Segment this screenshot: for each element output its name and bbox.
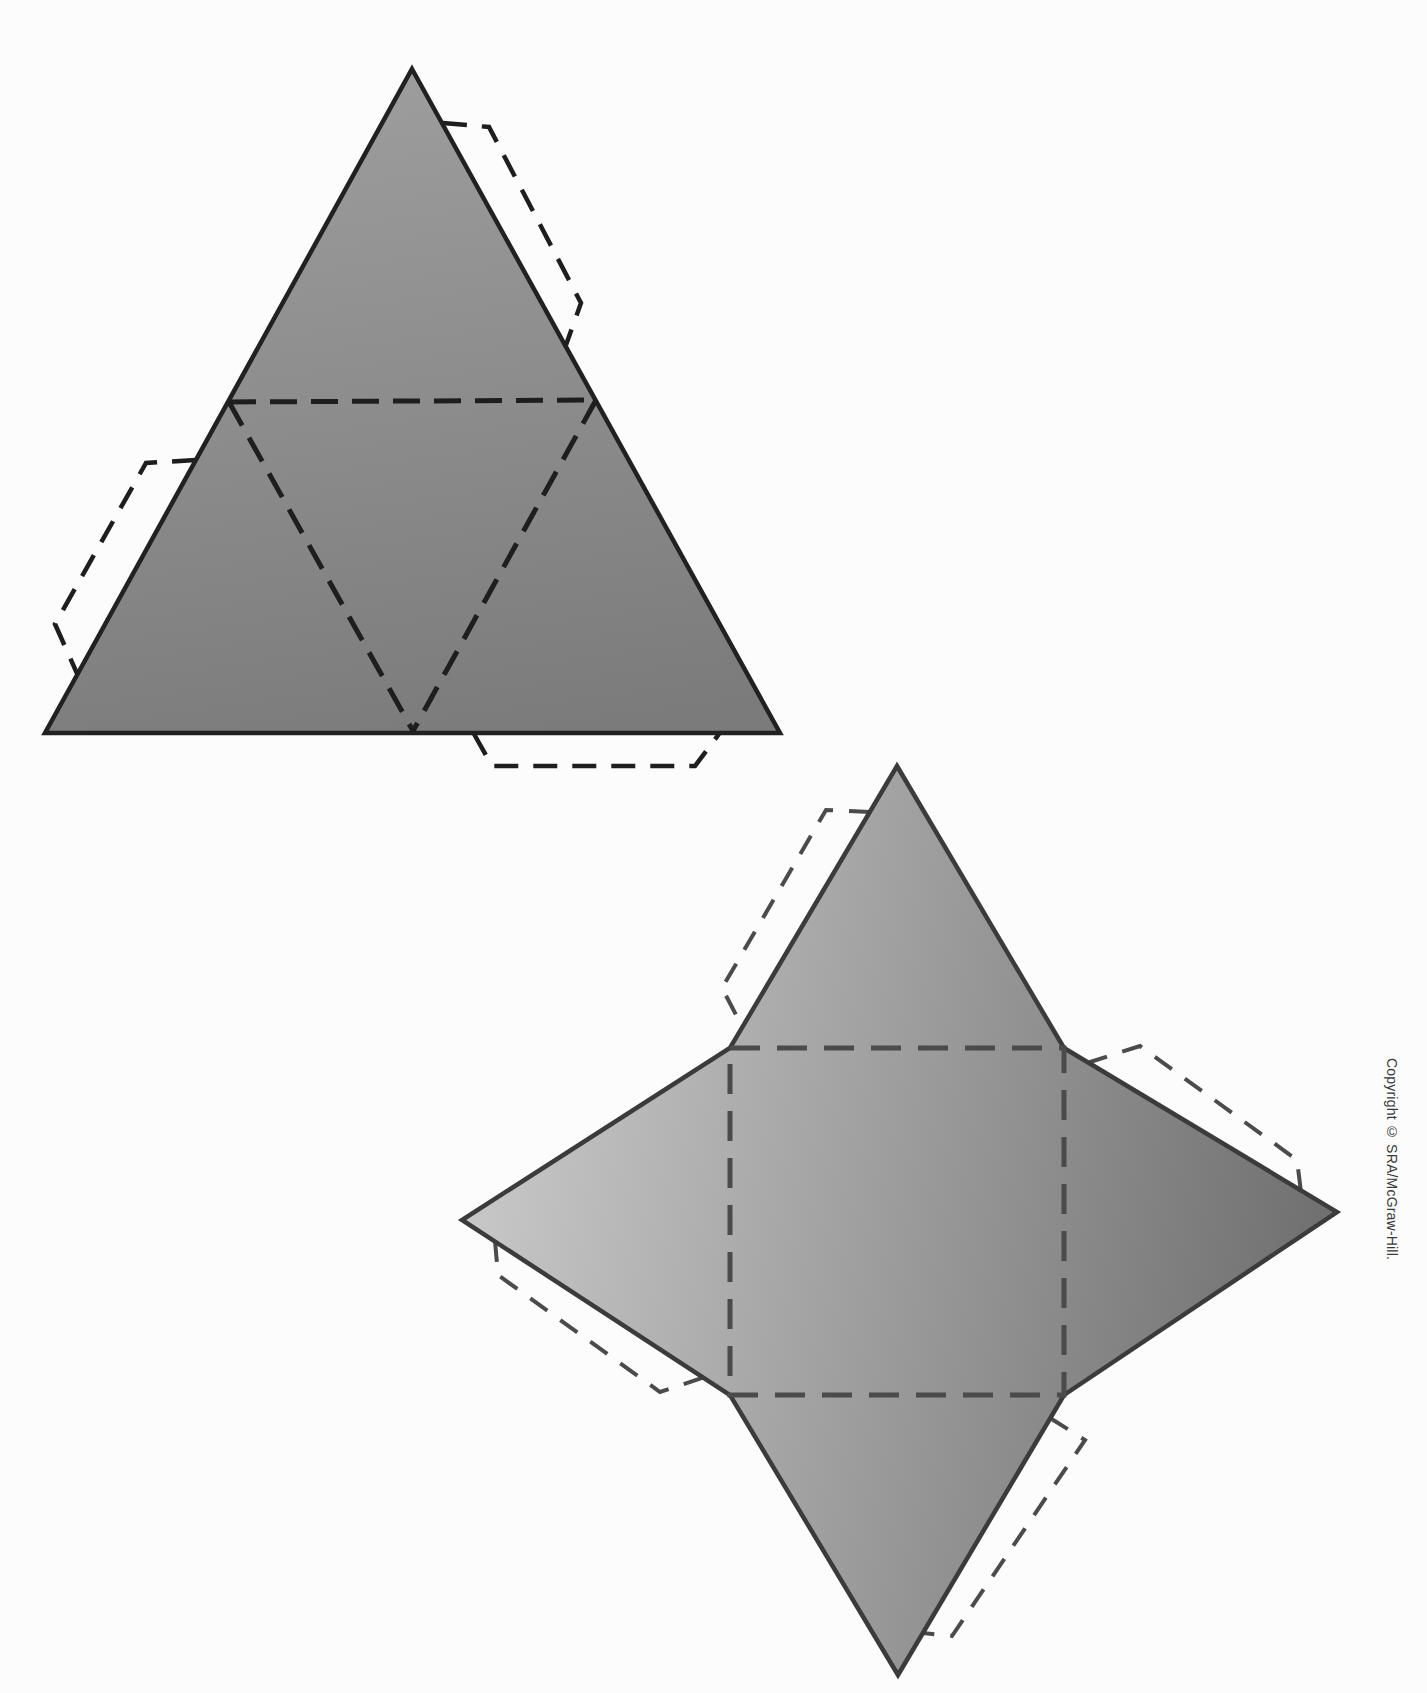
triangular-pyramid-net-fold-line xyxy=(229,400,596,402)
nets-canvas xyxy=(0,0,1427,1693)
triangular-pyramid-net xyxy=(45,69,780,766)
copyright-notice: Copyright © SRA/McGraw-Hill. xyxy=(1384,1058,1400,1260)
worksheet-page: Copyright © SRA/McGraw-Hill. xyxy=(0,0,1427,1693)
square-pyramid-net-face xyxy=(462,766,1337,1675)
triangular-pyramid-net-glue-tab xyxy=(474,734,719,766)
square-pyramid-net xyxy=(462,766,1337,1675)
